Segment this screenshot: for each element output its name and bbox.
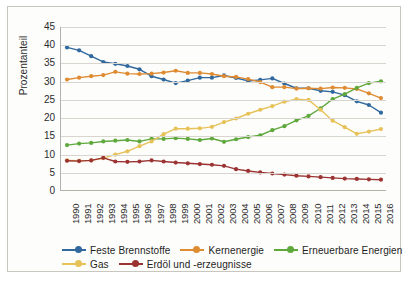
data-point <box>343 92 347 96</box>
gridline <box>61 155 386 156</box>
x-tick-label: 1992 <box>94 204 105 224</box>
data-point <box>101 73 105 77</box>
data-point <box>379 111 383 115</box>
gridline <box>61 136 386 137</box>
y-tick-label: 15 <box>35 131 55 141</box>
data-point <box>318 175 322 179</box>
legend-swatch-icon <box>119 259 143 269</box>
data-point <box>210 76 214 80</box>
data-point <box>149 139 153 143</box>
data-point <box>125 160 129 164</box>
legend-label: Gas <box>90 259 109 270</box>
y-tick-label: 40 <box>35 40 55 50</box>
data-point <box>367 103 371 107</box>
data-point <box>210 72 214 76</box>
data-point <box>198 71 202 75</box>
legend-item[interactable]: Gas <box>62 259 109 270</box>
gridline <box>61 45 386 46</box>
gridline <box>61 118 386 119</box>
x-tick-label: 1994 <box>118 204 129 224</box>
x-tick-label: 2004 <box>239 204 250 224</box>
data-point <box>222 120 226 124</box>
y-axis-title: Prozentanteil <box>18 6 29 126</box>
data-point <box>367 177 371 181</box>
data-point <box>343 86 347 90</box>
data-point <box>101 139 105 143</box>
data-point <box>77 159 81 163</box>
data-point <box>210 125 214 129</box>
data-point <box>270 85 274 89</box>
legend-item[interactable]: Erdöl und -erzeugnisse <box>119 259 252 270</box>
x-tick-label: 2015 <box>372 204 383 224</box>
data-point <box>137 67 141 71</box>
y-tick-label: 5 <box>35 168 55 178</box>
x-tick-label: 2001 <box>203 204 214 224</box>
gridline <box>61 63 386 64</box>
x-tick-label: 2007 <box>275 204 286 224</box>
data-point <box>258 108 262 112</box>
data-point <box>137 72 141 76</box>
x-tick-label: 2002 <box>215 204 226 224</box>
data-point <box>270 76 274 80</box>
series-kernenergie <box>65 69 383 101</box>
legend-item[interactable]: Feste Brennstoffe <box>62 245 170 256</box>
data-point <box>282 124 286 128</box>
data-point <box>113 159 117 163</box>
data-point <box>331 176 335 180</box>
data-point <box>331 119 335 123</box>
data-point <box>331 90 335 94</box>
legend-swatch-icon <box>180 245 204 255</box>
data-point <box>246 112 250 116</box>
data-point <box>101 156 105 160</box>
gridline <box>61 100 386 101</box>
x-tick-label: 2014 <box>360 204 371 224</box>
data-point <box>270 104 274 108</box>
data-point <box>174 69 178 73</box>
y-tick-label: 20 <box>35 113 55 123</box>
data-point <box>89 158 93 162</box>
data-point <box>270 128 274 132</box>
data-point <box>162 137 166 141</box>
y-tick-label: 0 <box>35 186 55 196</box>
data-point <box>282 85 286 89</box>
legend-swatch-icon <box>274 245 298 255</box>
x-tick-label: 2005 <box>251 204 262 224</box>
data-point <box>198 126 202 130</box>
y-tick-label: 45 <box>35 22 55 32</box>
legend-item[interactable]: Erneuerbare Energien <box>274 245 402 256</box>
data-point <box>162 70 166 74</box>
legend-item[interactable]: Kernenergie <box>180 245 264 256</box>
data-point <box>186 137 190 141</box>
x-tick-label: 2016 <box>384 204 395 224</box>
data-point <box>367 130 371 134</box>
data-point <box>125 72 129 76</box>
x-tick-label: 2010 <box>312 204 323 224</box>
data-point <box>367 91 371 95</box>
data-point <box>294 174 298 178</box>
data-point <box>343 177 347 181</box>
data-point <box>234 167 238 171</box>
x-tick-label: 2013 <box>348 204 359 224</box>
data-point <box>125 138 129 142</box>
data-point <box>137 159 141 163</box>
data-point <box>186 71 190 75</box>
series-erd-l-und-erzeugnisse <box>65 156 383 182</box>
data-point <box>198 138 202 142</box>
data-point <box>125 64 129 68</box>
x-tick-label: 2006 <box>263 204 274 224</box>
data-point <box>113 70 117 74</box>
x-tick-label: 1998 <box>167 204 178 224</box>
y-tick-label: 35 <box>35 58 55 68</box>
data-point <box>89 141 93 145</box>
data-point <box>306 174 310 178</box>
data-point <box>294 86 298 90</box>
data-point <box>149 158 153 162</box>
data-point <box>113 139 117 143</box>
x-tick-label: 1991 <box>82 204 93 224</box>
series-line <box>67 99 381 161</box>
x-tick-label: 2011 <box>324 204 335 224</box>
legend-label: Erneuerbare Energien <box>302 245 402 256</box>
data-point <box>186 161 190 165</box>
data-point <box>222 140 226 144</box>
data-point <box>174 127 178 131</box>
